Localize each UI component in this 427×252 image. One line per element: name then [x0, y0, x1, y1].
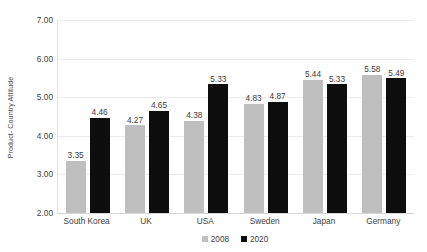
- legend-item[interactable]: 2008: [202, 235, 229, 244]
- bar-value-label: 4.83: [246, 94, 262, 102]
- bar-chart: Product- Country Attitude 7.006.005.004.…: [0, 0, 427, 252]
- legend-item[interactable]: 2020: [241, 235, 268, 244]
- bar-group: 5.445.33: [303, 20, 347, 213]
- bar: 5.33: [208, 84, 228, 213]
- bar: 5.49: [386, 78, 406, 213]
- bar: 4.27: [125, 125, 145, 213]
- bar-value-label: 4.38: [186, 111, 202, 119]
- bar: 4.83: [244, 104, 264, 213]
- bar: 3.35: [66, 161, 86, 213]
- bar-group: 4.385.33: [184, 20, 228, 213]
- x-axis-category-label: Japan: [313, 216, 336, 226]
- legend-swatch-icon: [241, 236, 247, 242]
- y-axis-title: Product- Country Attitude: [0, 52, 22, 182]
- chart-legend: 20082020: [57, 233, 413, 245]
- plot-area: 3.354.464.274.654.385.334.834.875.445.33…: [57, 20, 414, 214]
- y-axis-tick-label: 2.00: [22, 208, 53, 218]
- y-axis-tick-label: 6.00: [22, 54, 53, 64]
- y-axis-tick-label: 3.00: [22, 169, 53, 179]
- y-axis-tick-label: 5.00: [22, 92, 53, 102]
- x-axis-category-label: Germany: [366, 216, 400, 226]
- bar-value-label: 4.46: [92, 108, 108, 116]
- y-axis-tick-labels: 7.006.005.004.003.002.00: [22, 0, 56, 252]
- bar-group: 4.274.65: [125, 20, 169, 213]
- y-axis-tick-label: 7.00: [22, 15, 53, 25]
- y-axis-tick-label: 4.00: [22, 131, 53, 141]
- bar-value-label: 5.44: [305, 70, 321, 78]
- bar-group: 3.354.46: [66, 20, 110, 213]
- bar: 5.33: [327, 84, 347, 213]
- y-axis-title-label: Product- Country Attitude: [7, 76, 16, 158]
- legend-swatch-icon: [202, 236, 208, 242]
- bar: 4.87: [268, 102, 288, 213]
- bar-value-label: 4.87: [270, 92, 286, 100]
- bar-value-label: 4.65: [151, 101, 167, 109]
- bar-value-label: 5.33: [210, 75, 226, 83]
- x-axis-category-label: USA: [197, 216, 214, 226]
- x-axis-category-labels: South KoreaUKUSASwedenJapanGermany: [57, 216, 413, 230]
- bar-group: 4.834.87: [244, 20, 288, 213]
- x-axis-category-label: South Korea: [64, 216, 110, 226]
- legend-label: 2008: [211, 235, 229, 244]
- bar-group: 5.585.49: [362, 20, 406, 213]
- bar-value-label: 5.58: [364, 65, 380, 73]
- x-axis-category-label: Sweden: [250, 216, 280, 226]
- bar-value-label: 5.33: [329, 75, 345, 83]
- bar: 5.44: [303, 80, 323, 213]
- bar-value-label: 4.27: [127, 116, 143, 124]
- legend-label: 2020: [250, 235, 268, 244]
- bar: 5.58: [362, 75, 382, 213]
- bar: 4.65: [149, 111, 169, 213]
- bar: 4.46: [90, 118, 110, 213]
- bar-value-label: 3.35: [68, 151, 84, 159]
- bar: 4.38: [184, 121, 204, 213]
- bars-layer: 3.354.464.274.654.385.334.834.875.445.33…: [58, 20, 414, 213]
- x-axis-category-label: UK: [140, 216, 152, 226]
- bar-value-label: 5.49: [388, 69, 404, 77]
